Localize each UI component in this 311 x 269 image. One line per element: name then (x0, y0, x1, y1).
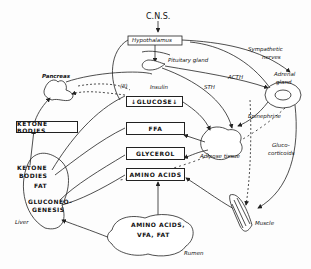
amino-acids-box: AMINO ACIDS (126, 168, 185, 181)
nerves-label: nerves (262, 55, 281, 61)
cns-label: C.N.S. (146, 13, 170, 21)
pancreas-label: Pancreas (42, 74, 70, 80)
adrenal-gland-label: gland (276, 80, 291, 86)
glucagon-label: (II) (120, 84, 128, 90)
adrenal-label: Adrenal (274, 72, 295, 78)
gluconeogenesis-label-1: GLUCONEO- (28, 199, 72, 205)
metabolic-regulation-diagram: C.N.S. Hypothalamus Pituitary gland Symp… (0, 0, 311, 269)
glucocorticoids-label-1: Gluco- (272, 143, 290, 149)
liver-label: Liver (15, 220, 29, 226)
sympathetic-label: Sympathetic (248, 47, 283, 53)
muscle-label: Muscle (255, 221, 274, 227)
glycerol-box: GLYCEROL (126, 147, 185, 160)
pituitary-gland-label: Pituitary gland (168, 58, 208, 64)
liver-ketone-label-2: BODIES (19, 173, 47, 179)
glucocorticoids-label-2: corticoids (268, 151, 295, 157)
epinephrine-label: Epinephrine (248, 114, 281, 120)
adipose-tissue-label: Adipose tissue (200, 154, 240, 160)
rumen-content-label-2: VFA, FAT (137, 232, 170, 238)
liver-ketone-label-1: KETONE (17, 165, 47, 171)
glucose-down-arrow-right: ↓ (172, 98, 178, 105)
hypothalamus-label: Hypothalamus (132, 38, 172, 44)
glucose-label: GLUCOSE (137, 98, 173, 105)
rumen-label: Rumen (184, 251, 204, 257)
rumen-content-label-1: AMINO ACIDS, (131, 222, 185, 228)
liver-fat-label: FAT (34, 183, 47, 189)
gluconeogenesis-label-2: GENESIS (32, 207, 65, 213)
glucose-box: ↓ GLUCOSE ↓ (126, 96, 183, 107)
ketone-bodies-box: KETONE BODIES (16, 121, 78, 133)
ffa-box: FFA (126, 122, 185, 135)
sth-label: STH (204, 85, 215, 91)
acth-label: ACTH (228, 75, 243, 81)
insulin-label: Insulin (150, 85, 168, 91)
